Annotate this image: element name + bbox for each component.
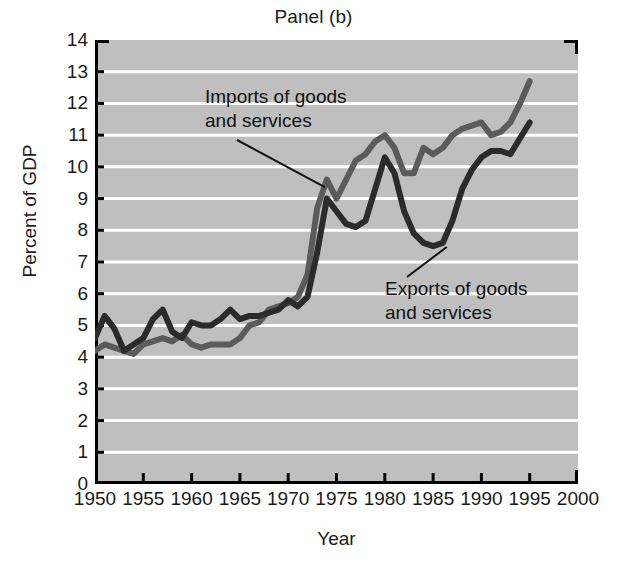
y-tick-label: 14	[38, 30, 88, 49]
y-tick-label: 9	[38, 189, 88, 208]
y-tick-label: 11	[38, 125, 88, 144]
y-tick-label: 4	[38, 347, 88, 366]
y-axis-tick-labels: 01234567891011121314	[38, 0, 88, 563]
y-tick-label: 5	[38, 315, 88, 334]
y-tick-label: 2	[38, 411, 88, 430]
imports-annotation-leader	[237, 140, 325, 187]
x-axis-title: Year	[95, 528, 578, 550]
imports-annotation-label: Imports of goodsand services	[205, 86, 347, 131]
plot-area: Imports of goodsand servicesExports of g…	[95, 40, 578, 484]
chart-figure: Panel (b) Percent of GDP Year 0123456789…	[0, 0, 627, 563]
x-tick-label: 2000	[548, 488, 608, 510]
plot-canvas: Imports of goodsand servicesExports of g…	[95, 40, 578, 484]
y-tick-label: 3	[38, 379, 88, 398]
exports-annotation-label: Exports of goodsand services	[385, 278, 528, 323]
y-tick-label: 10	[38, 157, 88, 176]
y-tick-label: 12	[38, 93, 88, 112]
y-tick-label: 1	[38, 442, 88, 461]
y-tick-label: 8	[38, 220, 88, 239]
y-tick-label: 6	[38, 284, 88, 303]
x-axis-tick-labels: 1950195519601965197019751980198519901995…	[0, 488, 627, 514]
page-title: Panel (b)	[0, 6, 627, 28]
y-tick-label: 7	[38, 252, 88, 271]
y-tick-label: 13	[38, 62, 88, 81]
